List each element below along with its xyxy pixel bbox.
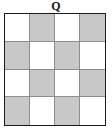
checkerboard-figure: Q [0, 0, 112, 131]
figure-label: Q [0, 0, 112, 13]
grid-cell-r2-c4 [80, 42, 105, 70]
grid-cell-r1-c2 [30, 14, 55, 42]
grid-cell-r3-c2 [30, 70, 55, 98]
grid-cell-r3-c4 [80, 70, 105, 98]
grid-cell-r2-c2 [30, 42, 55, 70]
grid-cell-r4-c2 [30, 97, 55, 125]
checkerboard-grid [4, 13, 106, 126]
grid-cell-r1-c4 [80, 14, 105, 42]
grid-cell-r2-c3 [55, 42, 80, 70]
grid-cell-r3-c1 [5, 70, 30, 98]
grid-cell-r3-c3 [55, 70, 80, 98]
grid-cell-r2-c1 [5, 42, 30, 70]
grid-cell-r1-c1 [5, 14, 30, 42]
grid-cell-r4-c3 [55, 97, 80, 125]
grid-cell-r4-c1 [5, 97, 30, 125]
grid-cell-r1-c3 [55, 14, 80, 42]
grid-cell-r4-c4 [80, 97, 105, 125]
